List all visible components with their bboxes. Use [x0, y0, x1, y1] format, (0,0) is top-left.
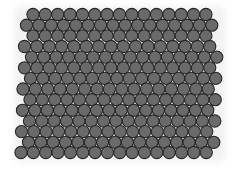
sphere	[138, 146, 150, 158]
sphere	[211, 51, 223, 63]
sphere	[163, 146, 175, 158]
sphere	[77, 146, 89, 158]
sphere	[114, 146, 126, 158]
sphere	[188, 146, 200, 158]
sphere-grid	[15, 8, 223, 158]
sphere-packing-image	[0, 0, 237, 167]
sphere	[89, 146, 101, 158]
sphere	[18, 40, 30, 52]
sphere	[126, 146, 138, 158]
sphere	[27, 146, 39, 158]
sphere	[200, 146, 212, 158]
sphere	[52, 146, 64, 158]
sphere	[16, 104, 28, 116]
sphere	[151, 146, 163, 158]
sphere	[40, 146, 52, 158]
sphere	[175, 146, 187, 158]
sphere	[210, 72, 222, 84]
sphere	[209, 115, 221, 127]
sphere	[64, 146, 76, 158]
sphere	[15, 126, 27, 138]
sphere	[208, 136, 220, 148]
sphere	[209, 94, 221, 106]
sphere	[17, 83, 29, 95]
sphere	[101, 146, 113, 158]
sphere	[20, 19, 32, 31]
sphere	[15, 146, 27, 158]
